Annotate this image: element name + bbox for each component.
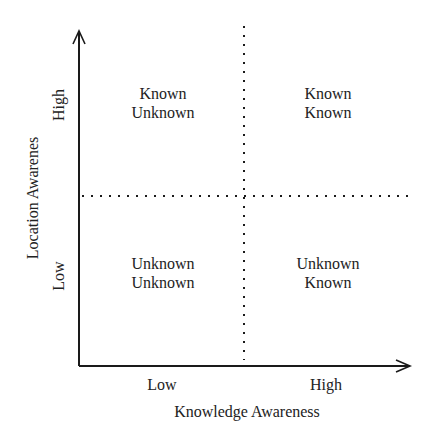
quadrant-diagram: Known Unknown Known Known Unknown Unknow… xyxy=(0,0,439,443)
x-axis-title: Knowledge Awareness xyxy=(174,403,320,421)
y-tick-low: Low xyxy=(50,261,67,291)
x-tick-high: High xyxy=(310,376,342,394)
quadrant-top-left-line2: Unknown xyxy=(131,104,194,121)
quadrant-bottom-right-line2: Known xyxy=(304,274,351,291)
quadrant-top-right-line2: Known xyxy=(304,104,351,121)
quadrant-bottom-left-line1: Unknown xyxy=(131,255,194,272)
y-axis-title: Location Awarenes xyxy=(24,137,41,259)
quadrant-bottom-left-line2: Unknown xyxy=(131,274,194,291)
quadrant-top-right-line1: Known xyxy=(304,85,351,102)
quadrant-bottom-right-line1: Unknown xyxy=(296,255,359,272)
x-tick-low: Low xyxy=(147,376,177,393)
quadrant-top-left-line1: Known xyxy=(139,85,186,102)
y-tick-high: High xyxy=(50,89,68,121)
